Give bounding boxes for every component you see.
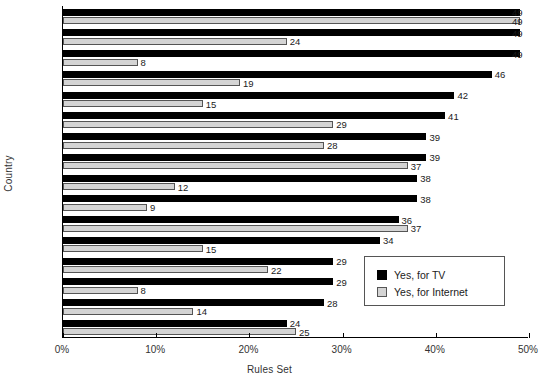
bar-internet [63, 266, 268, 273]
bar-value-label-internet: 25 [296, 326, 310, 337]
bar-value-label-internet: 24 [287, 36, 301, 47]
bar-value-label-internet: 29 [333, 119, 347, 130]
bar-tv [63, 278, 333, 285]
bar-value-label-internet: 37 [408, 160, 422, 171]
bar-value-label-internet: 15 [203, 98, 217, 109]
legend-swatch-internet-icon [377, 287, 387, 297]
bar-internet [63, 162, 408, 169]
legend-swatch-tv-icon [377, 270, 387, 280]
bar-value-label-tv: 39 [426, 131, 440, 142]
bar-tv [63, 92, 454, 99]
x-tick [249, 333, 250, 338]
bar-value-label-internet: 37 [408, 223, 422, 234]
x-tick-label: 40% [425, 344, 445, 355]
bar-value-label-tv: 41 [445, 110, 459, 121]
bar-value-label-tv: 38 [417, 193, 431, 204]
x-axis-title: Rules Set [0, 364, 539, 375]
bar-internet [63, 287, 138, 294]
bar-internet [63, 59, 138, 66]
x-tick-label: 30% [332, 344, 352, 355]
bar-internet [63, 17, 520, 24]
bar-value-label-tv: 29 [333, 256, 347, 267]
y-axis-title: Country [3, 144, 14, 204]
bar-value-label-tv: 46 [492, 69, 506, 80]
legend-item-tv: Yes, for TV [377, 266, 504, 283]
bar-tv [63, 216, 399, 223]
bar-value-label-internet: 9 [147, 202, 155, 213]
legend-label-tv: Yes, for TV [394, 269, 445, 281]
bar-value-label-internet: 14 [193, 306, 207, 317]
bar-value-label-tv: 34 [380, 235, 394, 246]
bar-tv [63, 258, 333, 265]
bar-internet [63, 328, 296, 335]
bar-internet [63, 100, 203, 107]
x-tick-label: 50% [518, 344, 538, 355]
x-tick-label: 10% [145, 344, 165, 355]
chart-legend: Yes, for TV Yes, for Internet [364, 256, 505, 306]
bar-value-label-tv: 42 [454, 90, 468, 101]
x-tick [529, 333, 530, 338]
x-tick [63, 333, 64, 338]
bar-internet [63, 204, 147, 211]
bar-value-label-internet: 49 [509, 15, 523, 26]
bar-internet [63, 183, 175, 190]
bar-value-label-internet: 15 [203, 243, 217, 254]
bar-tv [63, 71, 492, 78]
legend-item-internet: Yes, for Internet [377, 283, 504, 300]
bar-tv [63, 9, 520, 16]
bar-value-label-tv: 39 [426, 152, 440, 163]
bar-tv [63, 154, 426, 161]
bar-tv [63, 195, 417, 202]
x-tick-label: 0% [55, 344, 69, 355]
bar-value-label-tv: 49 [509, 27, 523, 38]
bar-tv [63, 133, 426, 140]
bar-internet [63, 308, 193, 315]
bar-value-label-tv: 28 [324, 297, 338, 308]
bar-value-label-tv: 38 [417, 173, 431, 184]
bar-tv [63, 320, 287, 327]
bar-value-label-internet: 12 [175, 181, 189, 192]
x-tick [436, 333, 437, 338]
bar-value-label-internet: 28 [324, 140, 338, 151]
bar-internet [63, 245, 203, 252]
bar-internet [63, 79, 240, 86]
bar-internet [63, 225, 408, 232]
bar-value-label-tv: 29 [333, 276, 347, 287]
bar-tv [63, 175, 417, 182]
bar-internet [63, 38, 287, 45]
bar-value-label-internet: 19 [240, 77, 254, 88]
x-tick [343, 333, 344, 338]
bar-tv [63, 50, 520, 57]
bar-tv [63, 112, 445, 119]
bar-chart: Country Rules Set 4949492449846194215412… [0, 0, 539, 384]
bar-internet [63, 142, 324, 149]
bar-value-label-internet: 8 [138, 285, 146, 296]
bar-value-label-internet: 22 [268, 264, 282, 275]
legend-label-internet: Yes, for Internet [394, 286, 468, 298]
bar-internet [63, 121, 333, 128]
bar-value-label-internet: 8 [138, 57, 146, 68]
x-tick-label: 20% [238, 344, 258, 355]
x-tick [156, 333, 157, 338]
bar-value-label-tv: 49 [509, 48, 523, 59]
bar-tv [63, 237, 380, 244]
